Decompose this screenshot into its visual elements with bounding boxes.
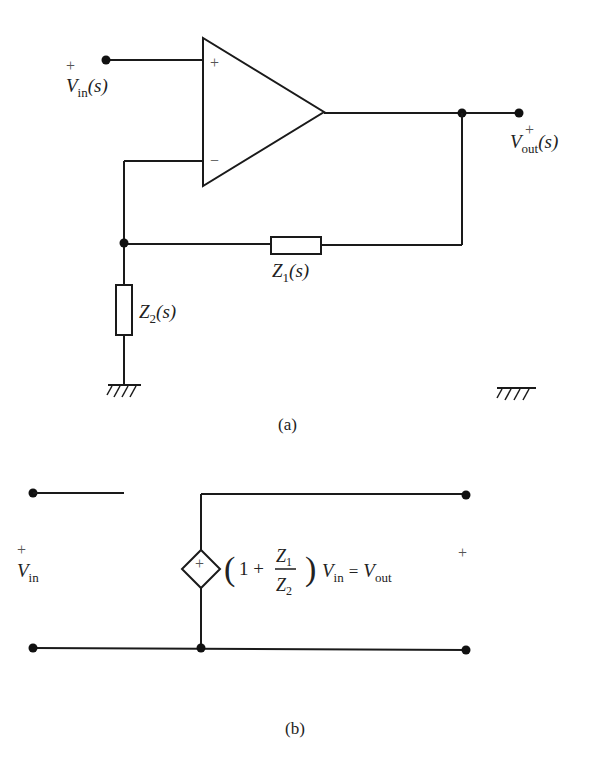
svg-text:Z1: Z1 (276, 546, 292, 569)
svg-text:Vin=Vout: Vin=Vout (322, 560, 392, 585)
z1-impedance (271, 237, 321, 254)
z2-label: Z2(s) (139, 301, 176, 326)
svg-text:): ) (305, 550, 316, 588)
svg-text:Z2: Z2 (276, 575, 292, 598)
z1-label: Z1(s) (272, 260, 309, 285)
vin-label: Vin (17, 560, 39, 585)
z2-impedance (116, 285, 132, 335)
ground-icon (107, 385, 141, 397)
vin-plus-sign: + (66, 57, 75, 74)
vout-top-terminal (462, 491, 471, 500)
svg-text:(: ( (224, 550, 235, 588)
figure-a: + − (66, 38, 558, 434)
vout-plus-sign: + (458, 544, 467, 561)
feedback-node (120, 239, 129, 248)
figure-b-caption: (b) (285, 719, 305, 738)
gain-equation: ( 1 + Z1 Z2 ) Vin=Vout (224, 546, 392, 598)
vout-bottom-terminal (462, 646, 471, 655)
circuit-diagram: + − (0, 0, 600, 769)
input-terminal (102, 56, 111, 65)
opamp-minus-label: − (210, 152, 219, 169)
opamp-plus-label: + (210, 54, 219, 71)
ground-node (197, 644, 206, 653)
svg-text:1 +: 1 + (239, 558, 264, 579)
source-plus-sign: + (195, 555, 204, 572)
output-terminal (515, 109, 524, 118)
ground-icon (497, 388, 536, 400)
vin-label: Vin(s) (66, 75, 108, 100)
vin-bottom-terminal (29, 644, 38, 653)
vout-plus-sign: + (525, 121, 534, 138)
vin-plus-sign: + (17, 541, 26, 558)
ground-wire (33, 648, 466, 650)
opamp-triangle (203, 38, 324, 186)
figure-b: + + Vin + ( 1 + Z1 Z2 ) Vin=Vout (b) (17, 489, 471, 739)
figure-a-caption: (a) (278, 415, 297, 434)
vout-label: Vout(s) (510, 131, 558, 156)
